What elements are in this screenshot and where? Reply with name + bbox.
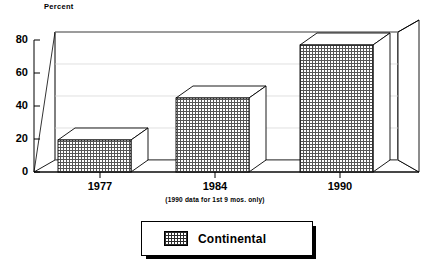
y-tick-label-20: 20 — [2, 132, 28, 144]
bar-1984 — [176, 86, 266, 172]
legend-item-label: Continental — [198, 232, 266, 246]
x-axis — [34, 172, 419, 178]
y-tick-label-40: 40 — [2, 99, 28, 111]
bar-1977 — [58, 128, 148, 172]
y-tick-label-0: 0 — [2, 165, 28, 177]
x-tick-label-1984: 1984 — [185, 180, 245, 192]
legend: Continental — [141, 221, 313, 256]
x-tick-label-1990: 1990 — [310, 180, 370, 192]
x-tick-label-1977: 1977 — [70, 180, 130, 192]
bar-chart: Percent 80 60 40 20 0 1977 1984 1990 (19… — [0, 0, 430, 263]
y-tick-label-80: 80 — [2, 33, 28, 45]
y-tick-label-60: 60 — [2, 66, 28, 78]
legend-swatch-icon — [164, 231, 188, 246]
y-axis-title: Percent — [44, 2, 74, 11]
chart-footnote: (1990 data for 1st 9 mos. only) — [0, 196, 430, 203]
bar-1990 — [300, 33, 390, 172]
